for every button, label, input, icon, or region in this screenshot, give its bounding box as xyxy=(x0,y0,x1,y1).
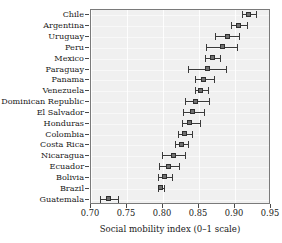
data-point-row xyxy=(91,162,269,172)
data-point-marker xyxy=(210,55,215,60)
data-point-row xyxy=(91,119,269,129)
ci-cap-lower xyxy=(159,163,160,170)
ci-cap-lower xyxy=(205,55,206,62)
ci-cap-lower xyxy=(158,174,159,181)
data-point-row xyxy=(91,151,269,161)
ci-cap-lower xyxy=(178,131,179,138)
data-point-marker xyxy=(162,174,167,179)
data-point-row xyxy=(91,65,269,75)
ci-cap-lower xyxy=(185,98,186,105)
y-axis-category-label: Mexico xyxy=(0,54,84,62)
y-axis-category-label: Costa Rica xyxy=(0,140,84,148)
ci-cap-lower xyxy=(162,152,163,159)
data-point-row xyxy=(91,32,269,42)
ci-cap-upper xyxy=(192,131,193,138)
ci-cap-upper xyxy=(209,98,210,105)
data-point-marker xyxy=(190,109,195,114)
data-point-row xyxy=(91,21,269,31)
x-axis-title: Social mobility index (0–1 scale) xyxy=(0,224,282,234)
ci-cap-upper xyxy=(188,141,189,148)
x-axis-tick-label: 0.75 xyxy=(117,209,135,218)
data-point-marker xyxy=(205,66,210,71)
ci-cap-lower xyxy=(195,87,196,94)
y-axis-tick xyxy=(85,123,89,124)
y-axis-tick xyxy=(85,58,89,59)
data-point-row xyxy=(91,173,269,183)
y-axis-tick xyxy=(85,155,89,156)
ci-cap-upper xyxy=(247,22,248,29)
data-point-row xyxy=(91,86,269,96)
x-axis-tick-label: 0.90 xyxy=(225,209,243,218)
y-axis-tick xyxy=(85,134,89,135)
y-axis-tick xyxy=(85,199,89,200)
data-point-marker xyxy=(198,88,203,93)
ci-cap-upper xyxy=(256,11,257,18)
y-axis-category-label: Uruguay xyxy=(0,32,84,40)
ci-cap-lower xyxy=(206,44,207,51)
y-axis-tick xyxy=(85,14,89,15)
ci-cap-upper xyxy=(239,33,240,40)
ci-cap-upper xyxy=(220,55,221,62)
data-point-marker xyxy=(193,99,198,104)
ci-cap-upper xyxy=(179,163,180,170)
data-point-marker xyxy=(246,12,251,17)
ci-cap-lower xyxy=(175,141,176,148)
ci-cap-upper xyxy=(185,152,186,159)
ci-cap-upper xyxy=(214,76,215,83)
x-axis-title-text: Social mobility index (0–1 scale) xyxy=(42,224,241,234)
y-axis-tick xyxy=(85,36,89,37)
data-point-marker xyxy=(171,153,176,158)
data-point-row xyxy=(91,75,269,85)
ci-cap-upper xyxy=(172,174,173,181)
y-axis-tick xyxy=(85,101,89,102)
y-axis-category-label: Colombia xyxy=(0,130,84,138)
y-axis-tick xyxy=(85,90,89,91)
forest-plot-figure: Social mobility index (0–1 scale) 0.700.… xyxy=(0,0,282,243)
ci-cap-lower xyxy=(231,22,232,29)
plot-area xyxy=(90,9,270,204)
ci-cap-lower xyxy=(242,11,243,18)
x-axis-tick-label: 0.85 xyxy=(189,209,207,218)
data-point-marker xyxy=(179,142,184,147)
data-point-marker xyxy=(158,185,163,190)
y-axis-category-label: Venezuela xyxy=(0,86,84,94)
ci-cap-upper xyxy=(164,185,165,192)
data-point-row xyxy=(91,130,269,140)
data-point-row xyxy=(91,10,269,20)
ci-cap-upper xyxy=(118,196,119,203)
y-axis-category-label: Dominican Republic xyxy=(0,97,84,105)
x-axis-tick-label: 0.95 xyxy=(261,209,279,218)
y-axis-category-label: El Salvador xyxy=(0,108,84,116)
y-axis-category-label: Bolivia xyxy=(0,173,84,181)
data-point-marker xyxy=(182,131,187,136)
y-axis-category-label: Paraguay xyxy=(0,65,84,73)
data-point-row xyxy=(91,108,269,118)
ci-cap-upper xyxy=(200,120,201,127)
data-point-row xyxy=(91,140,269,150)
data-point-row xyxy=(91,195,269,205)
y-axis-tick xyxy=(85,166,89,167)
x-axis-tick-label: 0.70 xyxy=(81,209,99,218)
ci-cap-lower xyxy=(188,66,189,73)
ci-cap-upper xyxy=(208,87,209,94)
data-point-marker xyxy=(220,44,225,49)
data-point-marker xyxy=(201,77,206,82)
data-point-marker xyxy=(106,196,111,201)
y-axis-category-label: Peru xyxy=(0,43,84,51)
ci-cap-upper xyxy=(237,44,238,51)
y-axis-tick xyxy=(85,69,89,70)
ci-cap-lower xyxy=(100,196,101,203)
ci-cap-lower xyxy=(195,76,196,83)
y-axis-category-label: Honduras xyxy=(0,119,84,127)
x-axis-tick-label: 0.80 xyxy=(153,209,171,218)
data-point-row xyxy=(91,97,269,107)
y-axis-tick xyxy=(85,47,89,48)
ci-cap-lower xyxy=(215,33,216,40)
y-axis-category-label: Ecuador xyxy=(0,162,84,170)
y-axis-tick xyxy=(85,25,89,26)
y-axis-category-label: Chile xyxy=(0,10,84,18)
y-axis-category-label: Nicaragua xyxy=(0,151,84,159)
data-point-marker xyxy=(236,23,241,28)
y-axis-category-label: Guatemala xyxy=(0,195,84,203)
data-point-row xyxy=(91,54,269,64)
